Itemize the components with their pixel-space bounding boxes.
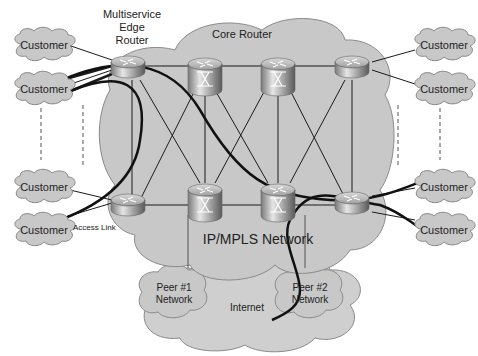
- customer-cloud: Customer: [15, 169, 75, 202]
- core-router-top-1: [188, 58, 222, 96]
- core-router-bottom-2: [261, 184, 295, 222]
- internet-label: Internet: [230, 302, 264, 313]
- network-label: IP/MPLS Network: [203, 231, 314, 247]
- network-diagram: Customer Customer Customer Customer Cust…: [0, 0, 478, 356]
- edge-router-top-left: [111, 56, 145, 78]
- core-router-bottom-1: [188, 184, 222, 222]
- edge-router-label: Edge: [119, 21, 145, 33]
- customer-cloud: Customer: [15, 71, 75, 104]
- edge-router-label: Multiservice: [103, 8, 161, 20]
- customer-cloud: Customer: [415, 169, 475, 202]
- edge-router-bottom-right: [335, 192, 369, 214]
- access-link-label: Access Link: [73, 223, 117, 232]
- svg-text:Customer: Customer: [20, 224, 68, 236]
- customer-cloud: Customer: [15, 27, 75, 60]
- core-router-label: Core Router: [212, 28, 272, 40]
- svg-text:Customer: Customer: [420, 39, 468, 51]
- svg-text:Customer: Customer: [20, 83, 68, 95]
- edge-router-top-right: [335, 56, 369, 78]
- edge-router-bottom-left: [111, 194, 145, 216]
- peer1-label: Peer #1: [156, 282, 191, 293]
- svg-text:Customer: Customer: [420, 83, 468, 95]
- svg-text:Customer: Customer: [420, 181, 468, 193]
- core-router-top-2: [261, 58, 295, 96]
- peer1-label: Network: [156, 294, 194, 305]
- svg-text:Customer: Customer: [20, 39, 68, 51]
- peer2-label: Peer #2: [292, 282, 327, 293]
- customer-cloud: Customer: [15, 212, 75, 245]
- peer2-label: Network: [292, 294, 330, 305]
- customer-cloud: Customer: [415, 71, 475, 104]
- edge-router-label: Router: [115, 34, 148, 46]
- customer-cloud: Customer: [415, 27, 475, 60]
- svg-text:Customer: Customer: [20, 181, 68, 193]
- customer-cloud: Customer: [415, 212, 475, 245]
- svg-text:Customer: Customer: [420, 224, 468, 236]
